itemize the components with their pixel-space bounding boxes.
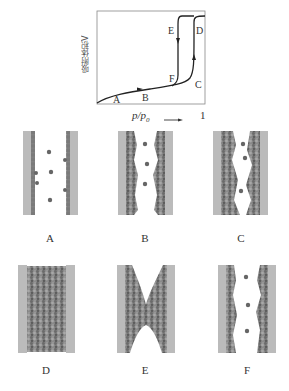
pore-panels xyxy=(0,0,289,391)
panel-b xyxy=(118,131,173,215)
panel-label-c: C xyxy=(221,232,261,244)
panel-label-f: F xyxy=(227,364,267,376)
panel-label-d: D xyxy=(26,364,66,376)
panel-c xyxy=(213,131,268,215)
panel-d xyxy=(18,265,75,353)
panel-label-a: A xyxy=(30,232,70,244)
panel-e xyxy=(117,265,175,353)
panel-a xyxy=(23,131,78,215)
panel-label-e: E xyxy=(125,364,165,376)
panel-label-b: B xyxy=(125,232,165,244)
panel-f xyxy=(218,265,276,353)
